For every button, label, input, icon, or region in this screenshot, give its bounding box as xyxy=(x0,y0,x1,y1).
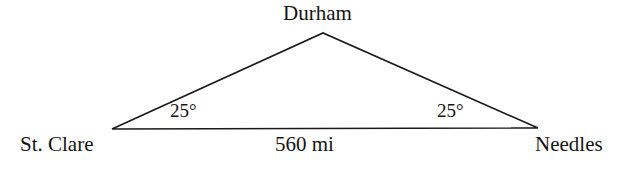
vertex-label-needles: Needles xyxy=(535,134,603,155)
vertex-label-st-clare: St. Clare xyxy=(20,134,94,155)
vertex-label-durham: Durham xyxy=(283,3,352,24)
side-label-base-length: 560 mi xyxy=(275,134,334,155)
angle-label-left: 25° xyxy=(170,101,197,120)
angle-label-right: 25° xyxy=(437,101,464,120)
triangle-diagram: Durham St. Clare Needles 560 mi 25° 25° xyxy=(0,0,628,170)
